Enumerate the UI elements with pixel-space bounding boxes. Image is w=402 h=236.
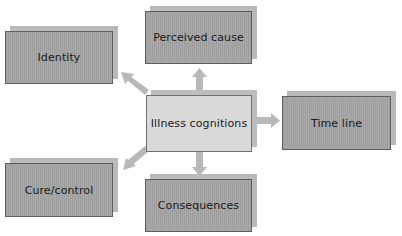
node-face: Illness cognitions	[146, 95, 252, 152]
center-label: Illness cognitions	[151, 117, 247, 130]
node-consequences: Consequences	[145, 179, 252, 232]
node-face: Perceived cause	[145, 11, 252, 64]
node-label: Identity	[38, 51, 81, 64]
node-face: Consequences	[145, 179, 252, 232]
node-time-line: Time line	[282, 96, 391, 150]
node-face: Time line	[282, 96, 391, 150]
node-label: Time line	[311, 117, 362, 130]
diagram-canvas: Identity Perceived cause Illness cogniti…	[0, 0, 402, 236]
node-identity: Identity	[5, 31, 113, 84]
node-cure-control: Cure/control	[5, 163, 113, 217]
arrow-to-perceived-cause	[192, 68, 207, 91]
arrow-to-time-line	[256, 113, 280, 128]
node-face: Cure/control	[5, 163, 113, 217]
node-label: Cure/control	[25, 184, 94, 197]
node-illness-cognitions: Illness cognitions	[146, 95, 252, 152]
node-label: Perceived cause	[153, 31, 244, 44]
node-perceived-cause: Perceived cause	[145, 11, 252, 64]
node-label: Consequences	[158, 199, 239, 212]
arrow-to-identity	[121, 72, 149, 95]
arrow-to-consequences	[192, 152, 207, 176]
node-face: Identity	[5, 31, 113, 84]
